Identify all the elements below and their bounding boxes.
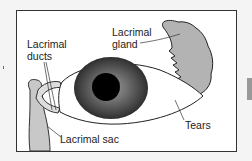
label-ducts-1: Lacrimal <box>27 38 67 50</box>
lacrimal-diagram: Lacrimal gland Lacrimal ducts Lacrimal s… <box>0 0 252 161</box>
pupil <box>92 73 120 101</box>
label-tears: Tears <box>185 119 211 131</box>
edge-mark <box>3 66 4 69</box>
label-ducts-2: ducts <box>27 50 52 62</box>
label-sac: Lacrimal sac <box>60 133 119 145</box>
label-gland-2: gland <box>112 38 138 50</box>
label-gland-1: Lacrimal <box>112 26 152 38</box>
edge-artifact <box>247 78 252 100</box>
